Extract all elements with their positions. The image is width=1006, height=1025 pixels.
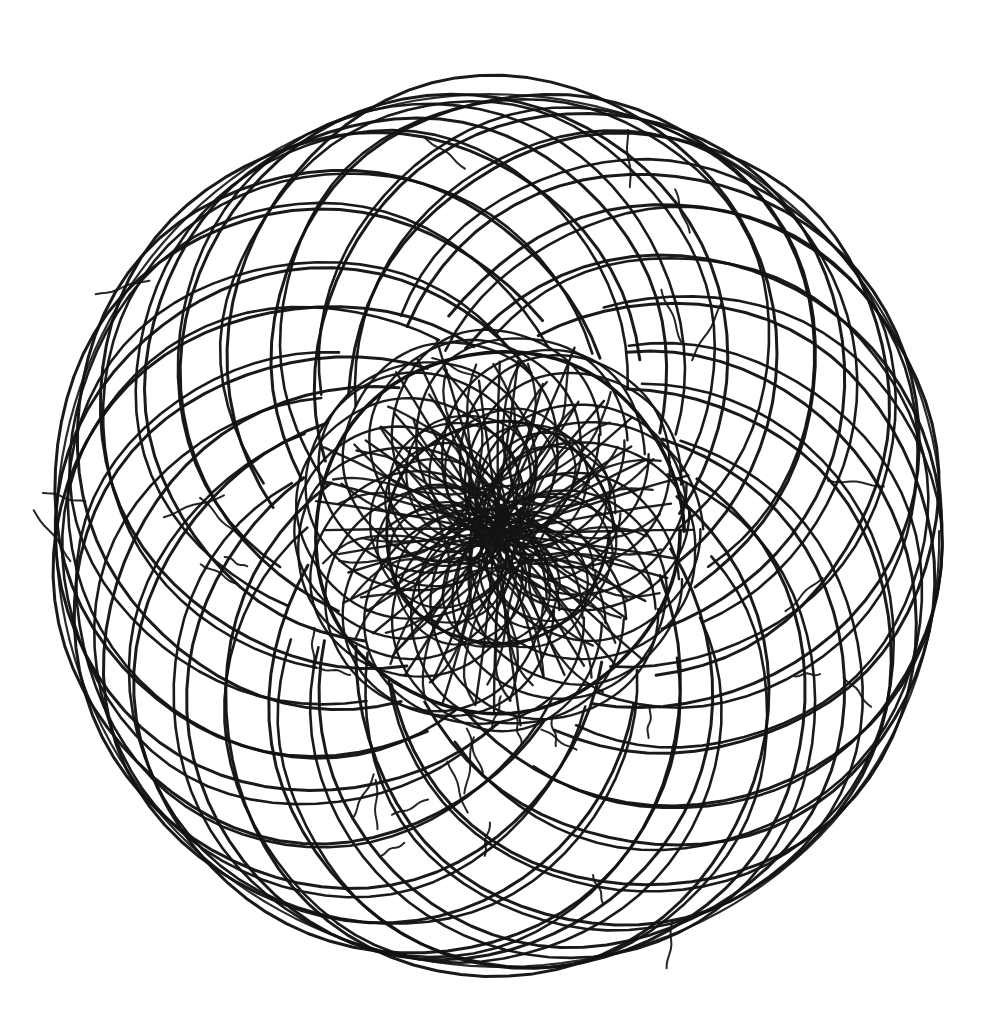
center-hub-dot (490, 523, 505, 538)
artboard (0, 0, 1006, 1025)
center-hub (490, 523, 505, 538)
spirograph-drawing (0, 0, 1006, 1025)
